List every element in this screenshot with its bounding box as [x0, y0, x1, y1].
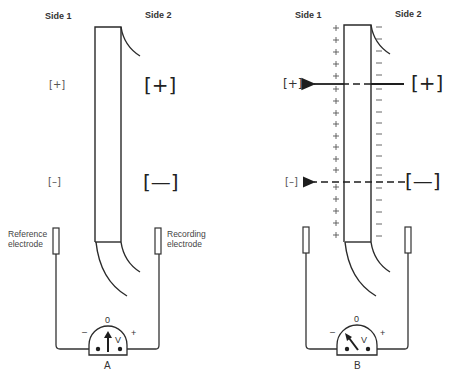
recording-electrode-label-line2: electrode — [167, 240, 206, 250]
side2-cation-b: [+] — [411, 73, 443, 93]
cell-column-b — [344, 25, 390, 296]
recording-electrode-a — [155, 228, 161, 254]
diagram-canvas — [0, 0, 473, 376]
side1-anion-b: [–] — [285, 177, 298, 187]
meter-unit-a: V — [115, 336, 121, 345]
meter-plus-b: + — [380, 329, 385, 338]
meter-unit-b: V — [361, 336, 367, 345]
membrane-plus-charges — [333, 25, 339, 238]
side2-label-a: Side 2 — [145, 11, 172, 20]
panel-b — [303, 25, 411, 355]
meter-zero-b: 0 — [354, 315, 359, 324]
meter-zero-a: 0 — [105, 316, 110, 325]
side1-label-b: Side 1 — [295, 11, 322, 20]
membrane-minus-charges — [376, 27, 382, 236]
recording-electrode-label: Recording electrode — [167, 230, 206, 250]
side2-anion-a: [—] — [143, 172, 179, 192]
reference-electrode-a — [53, 228, 59, 254]
reference-electrode-b — [303, 227, 309, 253]
voltmeter-a — [89, 326, 127, 355]
meter-minus-b: – — [330, 328, 335, 337]
side2-cation-a: [+] — [144, 75, 176, 95]
side1-label-a: Side 1 — [45, 12, 72, 21]
reference-electrode-label: Reference electrode — [8, 230, 47, 250]
side1-cation-b: [+] — [283, 78, 302, 90]
reference-electrode-label-line2: electrode — [8, 240, 47, 250]
meter-minus-a: – — [82, 328, 87, 337]
side1-anion-a: [–] — [48, 177, 61, 187]
cell-column-a — [95, 27, 140, 296]
panel-caption-b: B — [354, 361, 361, 371]
meter-plus-a: + — [131, 329, 136, 338]
voltmeter-b — [337, 325, 377, 355]
recording-electrode-b — [405, 227, 411, 253]
side1-cation-a: [+] — [49, 80, 65, 90]
side2-label-b: Side 2 — [395, 10, 422, 19]
side2-anion-b: [—] — [405, 171, 441, 191]
panel-caption-a: A — [104, 361, 111, 371]
